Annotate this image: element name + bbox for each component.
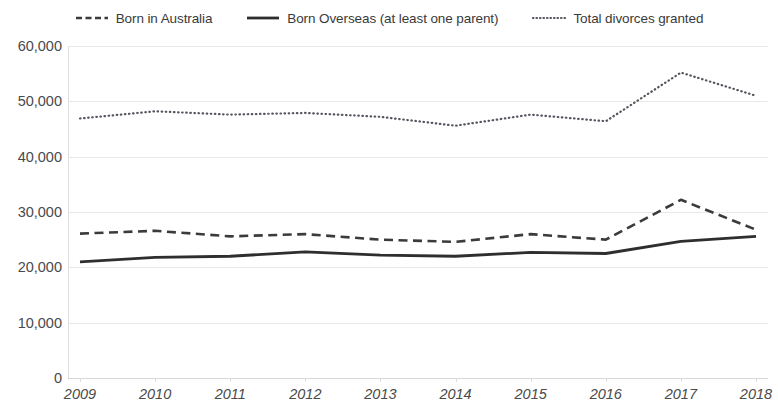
x-axis-tick	[606, 378, 607, 382]
legend-swatch-dashed-icon	[75, 12, 109, 24]
x-axis-tick	[155, 378, 156, 382]
x-axis-tick-label: 2011	[215, 386, 246, 402]
legend-item-born-overseas[interactable]: Born Overseas (at least one parent)	[246, 11, 498, 26]
legend-item-born-in-australia[interactable]: Born in Australia	[75, 11, 213, 26]
x-axis-tick	[230, 378, 231, 382]
x-axis-ticks	[68, 378, 768, 383]
x-axis-tick-label: 2014	[439, 386, 471, 402]
x-axis-labels: 2009201020112012201320142015201620172018	[68, 386, 768, 410]
x-axis-tick	[456, 378, 457, 382]
x-axis-tick-label: 2012	[289, 386, 321, 402]
y-axis-tick-label: 50,000	[0, 93, 62, 109]
x-axis-tick	[80, 378, 81, 382]
x-axis-tick-label: 2009	[64, 386, 96, 402]
x-axis-tick	[756, 378, 757, 382]
x-axis-tick-label: 2013	[364, 386, 396, 402]
x-axis-tick	[380, 378, 381, 382]
x-axis-tick	[531, 378, 532, 382]
legend-item-total-divorces-granted[interactable]: Total divorces granted	[532, 11, 703, 26]
legend-swatch-solid-icon	[246, 12, 280, 24]
data-series-layer	[68, 46, 768, 378]
y-axis-tick-label: 10,000	[0, 315, 62, 331]
y-axis-tick-label: 30,000	[0, 204, 62, 220]
x-axis-tick	[305, 378, 306, 382]
y-axis-tick-label: 20,000	[0, 259, 62, 275]
legend-swatch-dotted-icon	[532, 12, 566, 24]
x-axis-tick-label: 2017	[665, 386, 697, 402]
legend-label-total-divorces-granted: Total divorces granted	[573, 11, 703, 26]
line-chart: Born in Australia Born Overseas (at leas…	[0, 0, 778, 414]
x-axis-tick-label: 2018	[740, 386, 772, 402]
y-axis-tick-label: 60,000	[0, 38, 62, 54]
y-axis-tick-label: 40,000	[0, 149, 62, 165]
y-axis-tick-label: 0	[0, 370, 62, 386]
series-line-total-divorces-granted	[80, 73, 756, 126]
legend-label-born-overseas: Born Overseas (at least one parent)	[287, 11, 498, 26]
x-axis-tick-label: 2016	[590, 386, 622, 402]
y-axis-labels: 60,00050,00040,00030,00020,00010,0000	[0, 46, 62, 378]
legend-label-born-in-australia: Born in Australia	[116, 11, 213, 26]
x-axis-tick	[681, 378, 682, 382]
x-axis-tick-label: 2010	[139, 386, 171, 402]
chart-legend: Born in Australia Born Overseas (at leas…	[0, 6, 778, 30]
series-line-born-in-australia	[80, 200, 756, 242]
x-axis-tick-label: 2015	[515, 386, 547, 402]
